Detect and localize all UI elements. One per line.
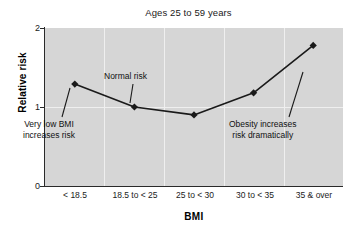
x-tick-label-4: 35 & over: [284, 190, 344, 200]
chart-title: Ages 25 to 59 years: [0, 7, 353, 18]
x-tick-label-1: 18.5 to < 25: [104, 190, 166, 200]
x-tick-label-3: 30 to < 35: [224, 190, 286, 200]
annotation-line-2: increases risk: [23, 130, 75, 141]
y-axis-line: [44, 27, 45, 187]
annotation-very-low-bmi: Very low BMI increases risk: [23, 119, 75, 140]
series-line-relative-risk: [45, 28, 343, 186]
chart-figure: Ages 25 to 59 years 2 1 0 Relative risk …: [0, 0, 353, 232]
y-tick-mark: [40, 186, 44, 187]
y-tick-mark: [40, 107, 44, 108]
x-tick-label-2: 25 to < 30: [164, 190, 226, 200]
x-axis-title: BMI: [45, 211, 343, 222]
annotation-obesity-increases-risk: Obesity increases risk dramatically: [229, 119, 297, 140]
data-point-marker: [71, 80, 78, 87]
x-tick-label-0: < 18.5: [45, 190, 105, 200]
y-tick-label-0: 0: [26, 181, 40, 191]
annotation-normal-risk: Normal risk: [104, 71, 147, 82]
plot-area: [45, 28, 343, 186]
annotation-line-1: Normal risk: [104, 71, 147, 82]
annotation-line-1: Obesity increases: [229, 119, 297, 130]
data-point-marker: [131, 103, 138, 110]
y-tick-label-2: 2: [26, 23, 40, 33]
y-tick-label-1: 1: [26, 102, 40, 112]
x-axis-line: [44, 186, 343, 187]
y-tick-mark: [40, 28, 44, 29]
annotation-line-2: risk dramatically: [229, 130, 297, 141]
data-point-marker: [190, 111, 197, 118]
annotation-line-1: Very low BMI: [23, 119, 75, 130]
